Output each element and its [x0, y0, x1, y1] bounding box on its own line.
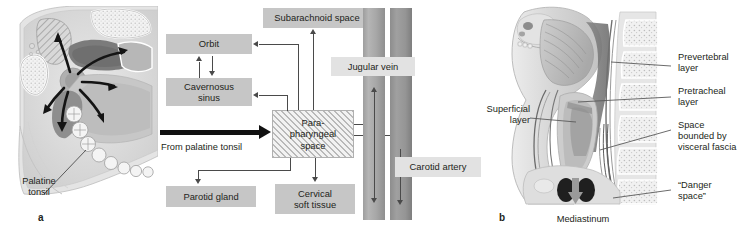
label-space-visceral-fascia: Space bounded by visceral fascia: [678, 120, 744, 153]
source-arrow-shaft: [160, 130, 260, 135]
flow-box-subarachnoid-space: Subarachnoid space: [263, 8, 371, 28]
flow-box-jugular-vein: Jugular vein: [331, 57, 415, 76]
arrowhead-cavernosus-to-orbit: [196, 56, 202, 61]
connector-pps-parotid-down1: [290, 158, 291, 170]
flow-box-parapharyngeal-space: Para- pharyngeal space: [272, 110, 354, 158]
arrowhead-pps-to-orbit: [253, 41, 258, 47]
leader-pretracheal-layer: [578, 92, 673, 106]
leader-space-visceral-fascia: [600, 128, 673, 152]
arrowhead-pps-to-cavernosus: [253, 92, 258, 98]
panel-a-letter: a: [38, 212, 44, 223]
label-mediastinum: Mediastinum: [538, 214, 628, 225]
label-superficial-layer: Superficial layer: [466, 104, 530, 126]
leader-prevertebral-layer: [611, 58, 673, 70]
connector-pps-to-subarachnoid: [313, 34, 314, 110]
flow-box-cavernosus-sinus: Cavernosus sinus: [166, 78, 252, 106]
flow-box-carotid-artery: Carotid artery: [395, 157, 481, 177]
connector-pps-cavernosus-horizontal: [259, 95, 288, 96]
leader-superficial-layer: [530, 110, 578, 120]
panel-b-letter: b: [499, 212, 505, 223]
figure-root: Palatine tonsil a Subarachnoid space Orb…: [0, 0, 744, 235]
flow-box-parotid-gland: Parotid gland: [166, 186, 256, 207]
connector-pps-parotid-horizontal: [198, 170, 291, 171]
label-pretracheal-layer: Pretracheal layer: [678, 86, 744, 108]
connector-pps-cavernosus-vertical: [287, 95, 288, 111]
connector-orbit-to-cavernosus: [212, 56, 213, 72]
flow-box-orbit: Orbit: [166, 34, 252, 54]
panel-a-illustration: [18, 6, 158, 202]
source-arrow-head: [259, 125, 271, 139]
connector-pps-orbit-horizontal: [259, 44, 299, 45]
arrowhead-pps-to-subarachnoid: [310, 29, 316, 34]
label-from-palatine-tonsil: From palatine tonsil: [161, 142, 281, 153]
label-danger-space: “Danger space”: [678, 180, 740, 202]
arrowhead-jugular-up: [371, 87, 377, 92]
jugular-flow-line: [374, 92, 375, 199]
label-prevertebral-layer: Prevertebral layer: [678, 52, 744, 74]
arrowhead-carotid-down: [397, 200, 403, 205]
arrowhead-orbit-to-cavernosus: [209, 71, 215, 76]
label-palatine-tonsil: Palatine tonsil: [8, 176, 70, 198]
connector-pps-orbit-vertical: [298, 44, 299, 110]
vessel-column-carotid: [390, 8, 412, 220]
arrowhead-jugular-down: [371, 198, 377, 203]
arrowhead-pps-to-parotid: [195, 179, 201, 184]
connector-cavernosus-to-orbit: [199, 62, 200, 78]
arrowhead-pps-to-cervical: [312, 177, 318, 182]
connector-pps-to-cervical: [315, 158, 316, 178]
flow-box-cervical-soft-tissue: Cervical soft tissue: [275, 184, 355, 214]
leader-danger-space: [613, 186, 673, 198]
